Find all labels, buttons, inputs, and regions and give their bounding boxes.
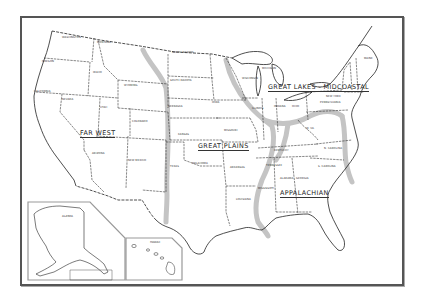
state-label-iowa: IOWA — [212, 102, 219, 105]
state-label-ohio: OHIO — [292, 106, 299, 109]
state-label-wyoming: WYOMING — [124, 85, 138, 88]
state-label-new-york: NEW YORK — [326, 96, 341, 99]
state-label-oklahoma: OKLAHOMA — [192, 163, 208, 166]
state-label-georgia: GEORGIA — [296, 178, 309, 181]
state-label-nevada: NEVADA — [62, 99, 73, 102]
state-label-pennsylvania: PENNSYLVANIA — [320, 102, 341, 105]
inset-label-hawaii: HAWAII — [150, 241, 160, 244]
state-label-s-carolina: S. CAROLINA — [318, 166, 336, 169]
state-label-mississippi: MISSISSIPPI — [258, 188, 274, 191]
state-label-kansas: KANSAS — [178, 134, 189, 137]
region-label-appalachian: APPALACHIAN — [280, 190, 329, 198]
state-label-oregon: OREGON — [42, 61, 54, 64]
state-label-montana: MONTANA — [97, 42, 111, 45]
state-label-louisiana: LOUISIANA — [236, 199, 251, 202]
state-label-idaho: IDAHO — [93, 72, 102, 75]
outline — [34, 26, 378, 254]
state-label-arkansas: ARKANSAS — [230, 167, 245, 170]
hawaii-islands — [132, 244, 175, 274]
corridor-rockies — [143, 50, 168, 222]
state-label-south-dakota: SOUTH DAKOTA — [170, 80, 192, 83]
west-coast — [34, 31, 76, 186]
state-label-kentucky: KENTUCKY — [274, 150, 289, 153]
state-label-washington: WASHINGTON — [62, 37, 81, 40]
region-label-great-plains: GREAT PLAINS — [198, 143, 249, 151]
inset-label-alaska: ALASKA — [62, 215, 73, 218]
state-label-alabama: ALABAMA — [280, 178, 293, 181]
state-label-missouri: MISSOURI — [224, 130, 238, 133]
state-label-california: CALIFORNIA — [34, 91, 51, 94]
state-label-n-carolina: N. CAROLINA — [324, 148, 342, 151]
state-label-illinois: ILLINOIS — [252, 108, 264, 111]
state-label-colorado: COLORADO — [132, 121, 148, 124]
state-label-utah: UTAH — [100, 107, 107, 110]
lake-superior — [232, 51, 272, 64]
east-coast — [308, 96, 360, 251]
state-label-tennessee: TENNESSEE — [266, 165, 282, 168]
corridor-ohio — [264, 112, 342, 124]
gulf-coast — [156, 214, 308, 254]
alaska-inner-frame — [70, 270, 112, 280]
state-label-nebraska: NEBRASKA — [168, 106, 183, 109]
region-label-great-lakes-midcoastal: GREAT LAKES - MIDCOASTAL — [268, 84, 369, 92]
corridor-appalachian — [342, 116, 352, 182]
lake-michigan — [256, 66, 261, 96]
mexico-border — [76, 186, 156, 220]
state-label-texas: TEXAS — [170, 166, 179, 169]
state-label-wisconsin: WISCONSIN — [242, 78, 258, 81]
lake-erie — [284, 92, 312, 101]
state-label-new-mexico: NEW MEXICO — [128, 160, 146, 163]
region-label-far-west: FAR WEST — [80, 130, 115, 138]
state-label-maine: MAINE — [364, 58, 373, 61]
state-label-arizona: ARIZONA — [92, 153, 105, 156]
state-label-north-dakota: NORTH DAKOTA — [172, 52, 194, 55]
state-label-indiana: INDIANA — [274, 106, 286, 109]
state-label-w-va: W. VA. — [306, 128, 315, 131]
state-label-michigan: MICHIGAN — [262, 68, 276, 71]
